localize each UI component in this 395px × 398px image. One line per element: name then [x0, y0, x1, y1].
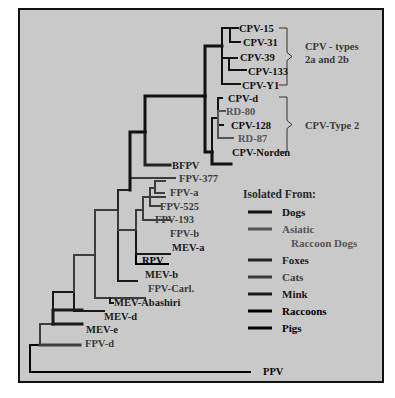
- leaf-label: FPV-a: [170, 187, 199, 198]
- leaf-label: CPV-39: [240, 52, 275, 63]
- leaf-label: MEV-e: [86, 324, 118, 335]
- leaf-label: MEV-b: [145, 269, 178, 280]
- leaf-label: MEV-Abashiri: [114, 297, 180, 308]
- legend-title: Isolated From:: [243, 188, 316, 200]
- legend-label: Asiatic: [282, 223, 315, 235]
- leaf-label: BFPV: [172, 160, 200, 171]
- leaf-label: FPV-Carl.: [148, 283, 195, 294]
- leaf-label: RD-80: [226, 106, 255, 117]
- leaf-label: RD-87: [238, 133, 267, 144]
- legend-label: Pigs: [282, 322, 302, 334]
- clade-label: 2a and 2b: [305, 54, 349, 65]
- phylogenetic-tree-figure: CPV-15CPV-31CPV-39CPV-133CPV-Y1CPV-dRD-8…: [0, 0, 395, 398]
- leaf-label: CPV-31: [243, 37, 278, 48]
- leaf-label: MEV-a: [172, 242, 205, 253]
- legend-label: Foxes: [282, 254, 310, 266]
- leaf-label: MEV-d: [104, 311, 137, 322]
- tree-canvas: CPV-15CPV-31CPV-39CPV-133CPV-Y1CPV-dRD-8…: [0, 0, 395, 398]
- legend-label: Mink: [282, 288, 309, 300]
- leaf-label: FPV-b: [170, 228, 199, 239]
- legend-label: Cats: [282, 271, 304, 283]
- leaf-label: RPV: [142, 255, 164, 266]
- leaf-label: CPV-d: [228, 93, 258, 104]
- clade-label: CPV-Type 2: [305, 120, 359, 131]
- leaf-label: CPV-15: [239, 23, 274, 34]
- leaf-label: PPV: [263, 366, 284, 377]
- leaf-label: FPV-525: [160, 201, 199, 212]
- leaf-label: FPV-377: [179, 173, 218, 184]
- leaf-label: FPV-d: [85, 338, 114, 349]
- clade-label: CPV - types: [305, 41, 358, 52]
- leaf-label: FPV-193: [155, 214, 194, 225]
- leaf-label: CPV-Y1: [242, 80, 279, 91]
- legend-label: Dogs: [282, 206, 306, 218]
- leaf-label: CPV-133: [248, 66, 288, 77]
- legend-label-continued: Raccoon Dogs: [291, 237, 358, 249]
- leaf-label: CPV-128: [231, 120, 271, 131]
- legend-label: Raccoons: [282, 305, 327, 317]
